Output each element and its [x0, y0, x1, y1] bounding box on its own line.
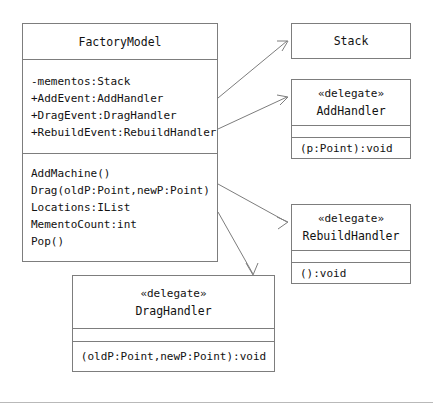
rebuildhandler-header: «delegate» RebuildHandler: [292, 205, 410, 250]
operation-row: Pop(): [31, 233, 217, 250]
draghandler-header: «delegate» DragHandler: [73, 276, 274, 328]
attribute-row: -mementos:Stack: [31, 73, 217, 90]
addhandler-stereotype: «delegate»: [292, 85, 410, 102]
arrowhead-rebuildhandler: [277, 217, 288, 229]
arrowhead-addhandler: [277, 95, 288, 105]
addhandler-name: AddHandler: [292, 102, 410, 120]
rebuildhandler-operations: ():void: [292, 262, 410, 284]
edge-factorymodel-to-draghandler: [218, 212, 253, 274]
operation-row: Drag(oldP:Point,newP:Point): [31, 182, 217, 199]
draghandler-attributes: [73, 328, 274, 341]
addhandler-signature: (p:Point):void: [300, 140, 410, 157]
page-bottom-rule: [0, 402, 433, 403]
factorymodel-operations: AddMachine() Drag(oldP:Point,newP:Point)…: [23, 153, 217, 261]
draghandler-name: DragHandler: [73, 302, 274, 320]
addhandler-attributes: [292, 125, 410, 137]
addhandler-header: «delegate» AddHandler: [292, 80, 410, 125]
class-box-draghandler[interactable]: «delegate» DragHandler (oldP:Point,newP:…: [72, 275, 275, 372]
rebuildhandler-attributes: [292, 250, 410, 262]
draghandler-stereotype: «delegate»: [73, 285, 274, 302]
factorymodel-name: FactoryModel: [23, 33, 217, 51]
uml-class-diagram: FactoryModel -mementos:Stack +AddEvent:A…: [0, 0, 433, 409]
draghandler-operations: (oldP:Point,newP:Point):void: [73, 341, 274, 371]
edge-factorymodel-to-addhandler: [218, 97, 287, 129]
edge-factorymodel-to-stack: [218, 41, 287, 98]
factorymodel-attributes: -mementos:Stack +AddEvent:AddHandler +Dr…: [23, 59, 217, 153]
rebuildhandler-signature: ():void: [300, 265, 410, 282]
class-box-factorymodel[interactable]: FactoryModel -mementos:Stack +AddEvent:A…: [22, 23, 218, 262]
attribute-row: +AddEvent:AddHandler: [31, 90, 217, 107]
class-box-addhandler[interactable]: «delegate» AddHandler (p:Point):void: [291, 79, 411, 159]
operation-row: AddMachine(): [31, 165, 217, 182]
stack-header: Stack: [292, 24, 410, 58]
arrowhead-stack: [277, 41, 288, 51]
rebuildhandler-stereotype: «delegate»: [292, 210, 410, 227]
operation-row: MementoCount:int: [31, 216, 217, 233]
operation-row: Locations:IList: [31, 199, 217, 216]
attribute-row: +RebuildEvent:RebuildHandler: [31, 124, 217, 141]
factorymodel-header: FactoryModel: [23, 24, 217, 59]
arrowhead-draghandler: [246, 263, 258, 275]
draghandler-signature: (oldP:Point,newP:Point):void: [73, 348, 274, 365]
attribute-row: +DragEvent:DragHandler: [31, 107, 217, 124]
rebuildhandler-name: RebuildHandler: [292, 227, 410, 245]
stack-name: Stack: [292, 32, 410, 50]
class-box-rebuildhandler[interactable]: «delegate» RebuildHandler ():void: [291, 204, 411, 284]
edge-factorymodel-to-rebuildhandler: [218, 184, 287, 222]
class-box-stack[interactable]: Stack: [291, 23, 411, 59]
addhandler-operations: (p:Point):void: [292, 137, 410, 159]
